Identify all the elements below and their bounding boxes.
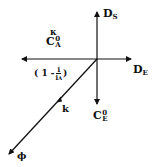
axes-graphic <box>0 0 156 167</box>
label-k: k <box>62 104 69 114</box>
vector-diagram: DS DE κ C0A ( 1 -iiA) C0E k ϕ <box>0 0 156 167</box>
label-c0-e: C0E <box>93 110 108 122</box>
label-c0-a: C0A <box>46 36 61 48</box>
label-phi: ϕ <box>17 151 26 161</box>
label-d-e: DE <box>133 64 148 75</box>
label-expression: ( 1 -iiA) <box>34 66 67 81</box>
label-d-s: DS <box>103 8 118 19</box>
